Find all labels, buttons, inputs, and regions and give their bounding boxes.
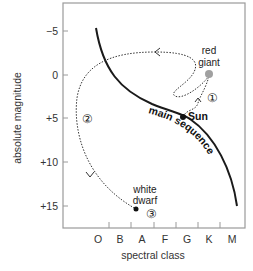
y-tick-plus10: +10 <box>40 156 58 168</box>
x-tick-A: A <box>138 233 145 245</box>
sun-label: Sun <box>188 110 208 122</box>
red-giant-label-line2: giant <box>198 57 220 68</box>
arrow-stage1-icon <box>195 98 201 102</box>
white-dwarf-label-line1: white <box>132 184 157 195</box>
x-tick-B: B <box>116 233 123 245</box>
x-tick-O: O <box>94 233 102 245</box>
stage-2-marker: ② <box>82 112 93 126</box>
stage-1-marker: ① <box>207 91 218 105</box>
x-axis-title: spectral class <box>121 249 185 261</box>
sun-dot <box>180 114 186 120</box>
y-tick-minus5: −5 <box>46 25 58 37</box>
x-tick-G: G <box>183 233 191 245</box>
x-tick-F: F <box>162 233 168 245</box>
red-giant-label-line1: red <box>202 45 216 56</box>
x-tick-K: K <box>205 233 212 245</box>
y-tick-0: 0 <box>52 69 58 81</box>
arrow-descending-icon <box>86 172 94 177</box>
x-axis-ticks <box>109 222 220 228</box>
y-tick-plus5: +5 <box>46 112 58 124</box>
y-axis-ticks <box>63 31 68 206</box>
x-tick-M: M <box>228 233 237 245</box>
y-tick-plus15: +15 <box>40 200 58 212</box>
white-dwarf-label-line2: dwarf <box>133 195 158 206</box>
red-giant-dot <box>205 70 213 78</box>
y-axis-title: absolute magnitude <box>11 72 23 164</box>
white-dwarf-dot <box>134 207 139 212</box>
stage-3-marker: ③ <box>146 207 157 221</box>
hr-diagram: −5 0 +5 +10 +15 absolute magnitude O B A… <box>0 0 253 271</box>
